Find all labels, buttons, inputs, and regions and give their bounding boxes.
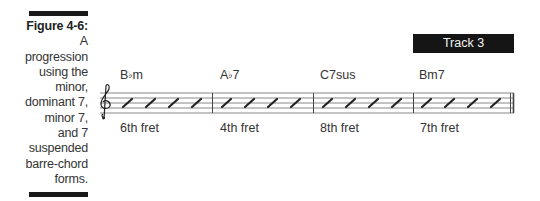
staff-lines xyxy=(100,93,514,113)
treble-clef-icon xyxy=(101,85,110,120)
music-staff xyxy=(0,0,540,201)
fret-label-4: 7th fret xyxy=(420,121,459,135)
fret-label-2: 4th fret xyxy=(220,121,259,135)
fret-label-3: 8th fret xyxy=(320,121,359,135)
fret-label-1: 6th fret xyxy=(120,121,159,135)
